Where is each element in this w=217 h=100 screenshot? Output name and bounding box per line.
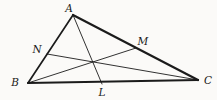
point-label-L: L [98,86,106,98]
triangle-side-BC [28,80,198,83]
geometry-figure: ABCNML [0,0,217,100]
point-label-C: C [204,74,212,86]
cevian-line-BM [28,48,136,83]
point-label-N: N [31,43,42,55]
point-label-M: M [137,35,149,47]
triangle-cevian-diagram: ABCNML [0,0,217,100]
cevian-line-AL [73,15,102,84]
triangle-side-AC [73,15,198,80]
point-label-B: B [10,76,19,88]
point-label-A: A [64,2,73,14]
